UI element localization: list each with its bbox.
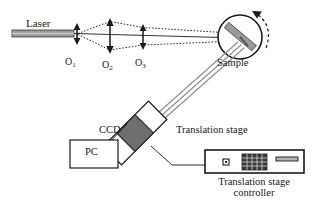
controller-caption: Translation stage controller [200, 176, 308, 198]
lens-o3-label: O3 [135, 58, 146, 69]
controller-caption-line2: controller [200, 187, 308, 198]
lens-o1-label-sub: 1 [72, 61, 76, 69]
lens-o3-arrow-bottom [140, 43, 147, 50]
pc-label: PC [85, 146, 98, 157]
lens-o1-arrow-bottom [74, 38, 81, 45]
stage-controller-cable [151, 146, 205, 165]
lens-o1-arrow-top [74, 23, 81, 30]
controller-keypad[interactable] [242, 154, 267, 170]
controller-caption-line1: Translation stage [200, 176, 308, 187]
lens-o2-label: O2 [102, 60, 113, 71]
ray-upper [78, 22, 238, 34]
translation-stage-label: Translation stage [176, 124, 248, 135]
sample-assembly [218, 15, 262, 59]
ccd-label: CCD [99, 124, 121, 135]
lens-o1-label: O1 [65, 57, 76, 68]
laser-label: Laser [26, 18, 50, 30]
optical-axis [74, 34, 240, 39]
lens-o3-label-sub: 3 [142, 62, 146, 70]
laser-source [12, 30, 74, 37]
lens-o2-label-sub: 2 [109, 64, 113, 72]
controller-display [276, 157, 298, 161]
lens-o2-arrow-bottom [106, 46, 113, 54]
controller-button-dot [225, 161, 227, 163]
sample-label: Sample [217, 57, 249, 68]
optical-setup-diagram: Laser O1 O2 O3 Sample CCD PC Translation… [0, 0, 317, 210]
translation-stage-controller [205, 150, 304, 173]
rotation-arrow-head [252, 11, 262, 19]
ray-lower [78, 35, 238, 51]
lens-o3 [140, 24, 147, 50]
